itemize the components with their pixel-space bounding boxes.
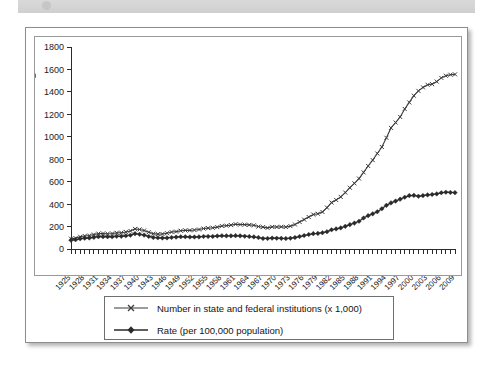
y-axis-tick-label: 1000 <box>44 132 64 142</box>
y-axis-tick-label: 1400 <box>44 87 64 97</box>
series-markers-number <box>35 72 457 240</box>
legend-label-number: Number in state and federal institutions… <box>157 303 362 314</box>
y-axis-tick-label: 1600 <box>44 65 64 75</box>
chart-legend: Number in state and federal institutions… <box>104 296 394 340</box>
plot-frame: 020040060080010001200140016001800 <box>34 36 462 276</box>
legend-marker-cross-icon <box>114 302 148 314</box>
y-axis-tick-label: 1800 <box>44 42 64 52</box>
legend-label-rate: Rate (per 100,000 population) <box>157 325 283 336</box>
page-header-bar <box>18 0 475 13</box>
y-axis-tick-label: 400 <box>49 200 64 210</box>
y-axis-tick-label: 800 <box>49 155 64 165</box>
legend-marker-diamond-icon <box>114 324 148 336</box>
legend-item-number: Number in state and federal institutions… <box>105 297 393 319</box>
y-axis-tick-label: 1200 <box>44 110 64 120</box>
y-axis-tick-label: 200 <box>49 222 64 232</box>
page-marker-icon <box>42 1 51 10</box>
y-axis-tick-label: 0 <box>59 244 64 254</box>
series-markers-rate <box>69 190 458 243</box>
figure-card: 020040060080010001200140016001800 192519… <box>25 27 468 343</box>
line-chart: 020040060080010001200140016001800 <box>35 37 461 275</box>
legend-item-rate: Rate (per 100,000 population) <box>105 319 393 341</box>
y-axis-tick-label: 600 <box>49 177 64 187</box>
series-line-number <box>71 74 455 238</box>
